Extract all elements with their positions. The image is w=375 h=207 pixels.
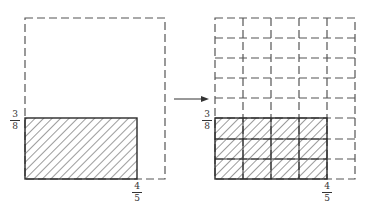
right-height-numerator: 3 xyxy=(202,110,212,121)
left-width-label: 4 5 xyxy=(132,182,142,203)
right-width-numerator: 4 xyxy=(322,182,332,193)
arrow-right-icon xyxy=(174,96,209,102)
right-height-label: 3 8 xyxy=(202,110,212,131)
fraction-multiplication-diagram xyxy=(0,0,375,207)
left-width-numerator: 4 xyxy=(132,182,142,193)
left-height-denominator: 8 xyxy=(10,121,20,131)
left-height-numerator: 3 xyxy=(10,110,20,121)
right-width-label: 4 5 xyxy=(322,182,332,203)
left-shaded-rectangle xyxy=(25,118,137,179)
left-height-label: 3 8 xyxy=(10,110,20,131)
right-width-denominator: 5 xyxy=(322,193,332,203)
left-width-denominator: 5 xyxy=(132,193,142,203)
right-height-denominator: 8 xyxy=(202,121,212,131)
right-shaded-region xyxy=(215,118,327,179)
